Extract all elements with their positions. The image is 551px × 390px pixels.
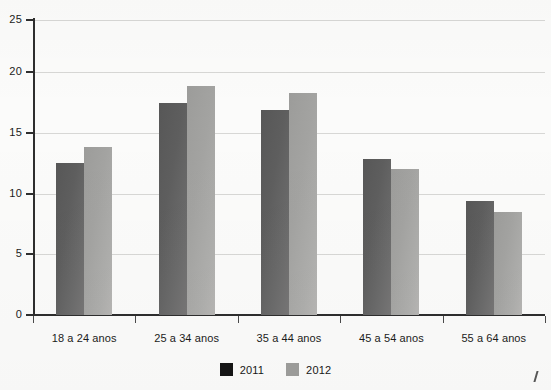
bar-2011-18-a-24-anos — [56, 163, 84, 315]
legend-label-2012: 2012 — [306, 364, 331, 376]
bar-2011-45-a-54-anos — [363, 159, 391, 315]
bar-2012-35-a-44-anos — [289, 93, 317, 315]
bars-layer — [33, 20, 545, 315]
bar-2011-25-a-34-anos — [159, 103, 187, 315]
x-tick-mark-4 — [443, 316, 444, 323]
x-axis-label-1: 18 a 24 anos — [33, 332, 135, 344]
y-tick-label-15: 15 — [0, 126, 22, 138]
legend-swatch-icon-2012 — [286, 363, 299, 376]
x-tick-mark-2 — [238, 316, 239, 323]
x-axis-label-5: 55 a 64 anos — [443, 332, 545, 344]
y-tick-label-20: 20 — [0, 65, 22, 77]
x-tick-mark-5 — [545, 316, 546, 323]
y-tick-label-5: 5 — [0, 247, 22, 259]
bar-chart: 25 20 15 10 5 0 18 a 24 anos25 a 34 anos… — [0, 0, 551, 390]
legend-item-2012[interactable]: 2012 — [286, 363, 331, 376]
legend-label-2011: 2011 — [240, 364, 264, 376]
x-axis-label-2: 25 a 34 anos — [135, 332, 237, 344]
chart-legend: 2011 2012 — [0, 363, 551, 376]
y-tick-label-0: 0 — [0, 308, 22, 320]
legend-swatch-icon-2011 — [220, 363, 233, 376]
x-tick-mark-1 — [135, 316, 136, 323]
x-axis-label-4: 45 a 54 anos — [340, 332, 442, 344]
bar-2012-18-a-24-anos — [84, 147, 112, 315]
y-tick-label-25: 25 — [0, 13, 22, 25]
x-axis-label-3: 35 a 44 anos — [238, 332, 340, 344]
bar-2012-45-a-54-anos — [391, 169, 419, 315]
bar-2011-55-a-64-anos — [466, 201, 494, 315]
x-tick-mark-0 — [33, 316, 34, 323]
bar-2012-25-a-34-anos — [187, 86, 215, 315]
bar-2011-35-a-44-anos — [261, 110, 289, 315]
legend-item-2011[interactable]: 2011 — [220, 363, 264, 376]
x-tick-mark-3 — [340, 316, 341, 323]
bar-2012-55-a-64-anos — [494, 212, 522, 315]
y-tick-label-10: 10 — [0, 187, 22, 199]
